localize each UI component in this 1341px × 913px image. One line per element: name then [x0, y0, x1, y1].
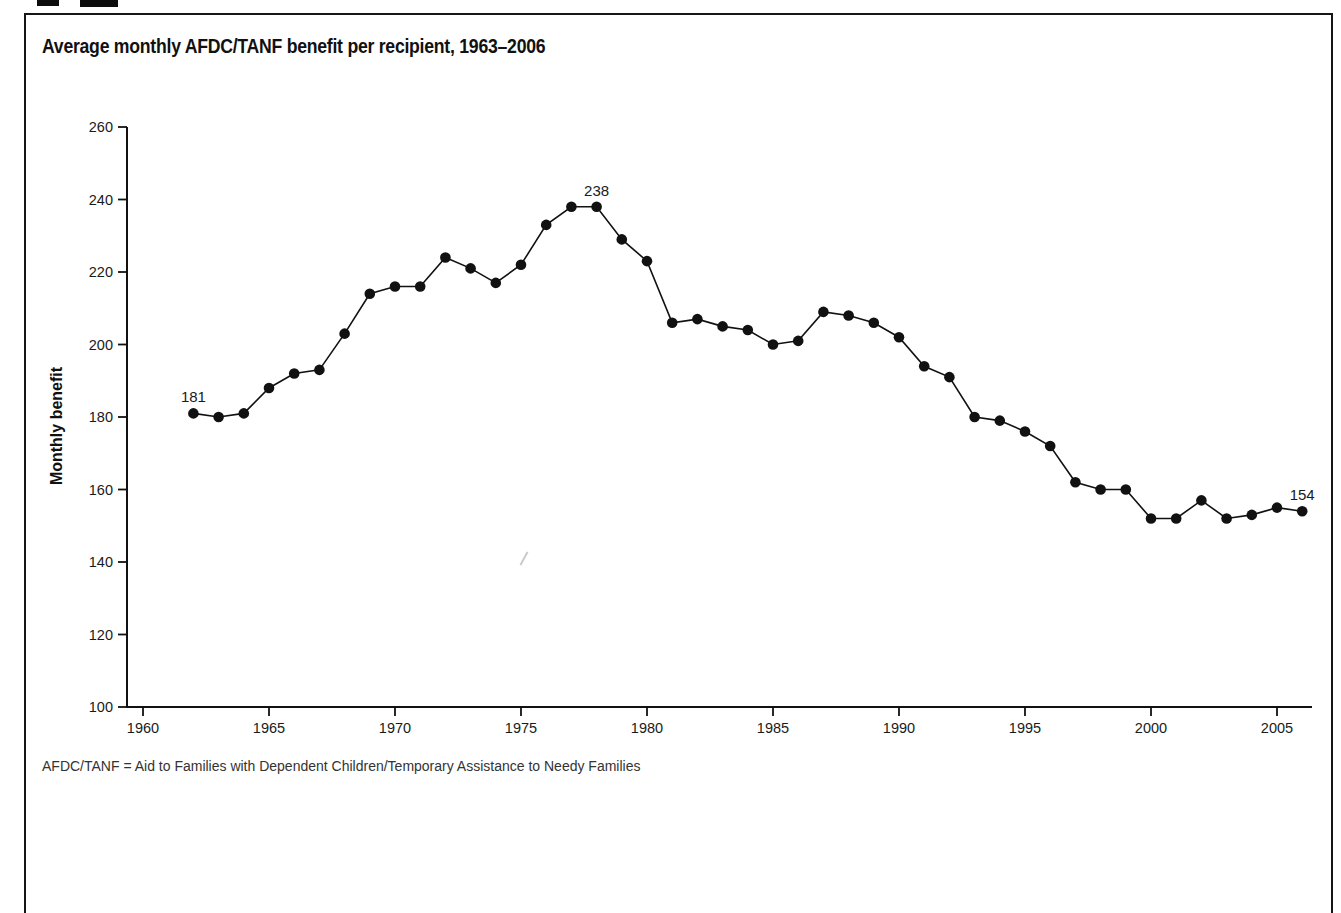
- data-point: [995, 415, 1006, 426]
- data-point: [743, 325, 754, 336]
- data-point: [894, 332, 905, 343]
- data-point: [1297, 506, 1308, 517]
- x-tick-label: 2000: [1135, 720, 1167, 736]
- data-point: [1171, 513, 1182, 524]
- data-point: [1272, 502, 1283, 513]
- data-point: [239, 408, 250, 419]
- y-tick-label: 260: [89, 119, 113, 135]
- x-tick-label: 1985: [757, 720, 789, 736]
- data-point: [314, 365, 325, 376]
- footnote: AFDC/TANF = Aid to Families with Depende…: [42, 758, 640, 774]
- data-point: [465, 263, 476, 274]
- data-point: [843, 310, 854, 321]
- data-point: [516, 259, 527, 270]
- y-tick-label: 160: [89, 482, 113, 498]
- data-point: [339, 328, 350, 339]
- data-point: [969, 412, 980, 423]
- data-point: [818, 307, 829, 318]
- data-point: [617, 234, 628, 245]
- data-point: [642, 256, 653, 267]
- benefit-line: [193, 207, 1302, 519]
- data-point: [1196, 495, 1207, 506]
- x-tick-label: 1990: [883, 720, 915, 736]
- data-point: [541, 220, 552, 231]
- data-point: [944, 372, 955, 383]
- data-point: [365, 288, 376, 299]
- y-tick-label: 200: [89, 337, 113, 353]
- y-tick-label: 140: [89, 554, 113, 570]
- data-point: [491, 278, 502, 289]
- data-point: [213, 412, 224, 423]
- data-point: [1095, 484, 1106, 495]
- point-value-label: 154: [1290, 486, 1315, 503]
- x-tick-label: 1980: [631, 720, 663, 736]
- data-point: [1020, 426, 1031, 437]
- data-point: [717, 321, 728, 332]
- y-tick-label: 240: [89, 192, 113, 208]
- data-point: [793, 336, 804, 347]
- x-tick-label: 1965: [253, 720, 285, 736]
- data-point: [1146, 513, 1157, 524]
- point-value-label: 238: [584, 182, 609, 199]
- x-tick-label: 1995: [1009, 720, 1041, 736]
- data-point: [1121, 484, 1132, 495]
- y-tick-label: 120: [89, 627, 113, 643]
- data-point: [667, 317, 678, 328]
- y-tick-label: 100: [89, 699, 113, 715]
- y-tick-label: 180: [89, 409, 113, 425]
- data-point: [566, 201, 577, 212]
- data-point: [919, 361, 930, 372]
- data-point: [768, 339, 779, 350]
- data-point: [869, 317, 880, 328]
- data-point: [1070, 477, 1081, 488]
- y-tick-label: 220: [89, 264, 113, 280]
- x-tick-label: 1975: [505, 720, 537, 736]
- data-point: [692, 314, 703, 325]
- data-point: [390, 281, 401, 292]
- x-tick-label: 1970: [379, 720, 411, 736]
- data-point: [1221, 513, 1232, 524]
- data-point: [1045, 441, 1056, 452]
- data-point: [591, 201, 602, 212]
- data-point: [264, 383, 275, 394]
- x-tick-label: 2005: [1261, 720, 1293, 736]
- data-point: [289, 368, 300, 379]
- point-value-label: 181: [181, 388, 206, 405]
- data-point: [188, 408, 199, 419]
- data-point: [1247, 510, 1258, 521]
- data-point: [415, 281, 426, 292]
- x-tick-label: 1960: [127, 720, 159, 736]
- data-point: [440, 252, 451, 263]
